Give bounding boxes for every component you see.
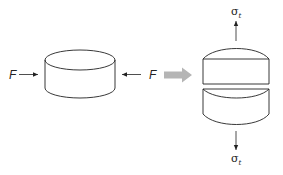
bottom-stress-label: σt xyxy=(231,153,241,167)
split-cylinder-bottom-half xyxy=(203,89,269,125)
top-stress-label: σt xyxy=(231,6,241,20)
compressed-cylinder xyxy=(45,50,115,98)
sigma-symbol: σ xyxy=(231,152,239,165)
transition-arrow-icon xyxy=(164,68,192,83)
diagram-canvas xyxy=(0,0,283,175)
stress-subscript: t xyxy=(239,159,242,167)
stress-subscript: t xyxy=(239,12,242,20)
sigma-symbol: σ xyxy=(231,5,239,18)
left-force-label: F xyxy=(9,69,16,81)
right-force-label: F xyxy=(149,69,156,81)
split-cylinder-top-half xyxy=(203,49,269,85)
